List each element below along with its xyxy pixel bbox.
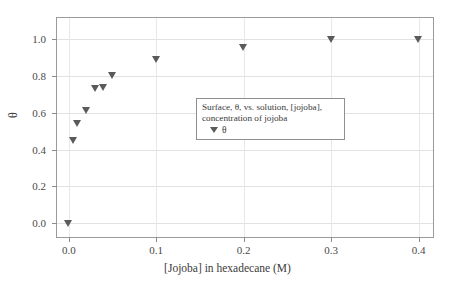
y-axis-tick-label: 0.8 <box>6 71 46 82</box>
x-axis-title: [Jojoba] in hexadecane (M) <box>0 262 455 274</box>
data-point-marker <box>91 85 99 92</box>
y-axis-tick <box>52 113 57 114</box>
gridline-vertical <box>156 18 157 237</box>
data-point-marker <box>152 56 160 63</box>
data-point-marker <box>82 107 90 114</box>
triangle-down-icon <box>210 127 218 133</box>
y-axis-title: θ <box>6 112 21 118</box>
x-axis-tick <box>331 237 332 242</box>
legend-title-line-2: concentration of jojoba <box>202 113 339 124</box>
x-axis-tick <box>156 237 157 242</box>
y-axis-tick <box>52 76 57 77</box>
y-axis-tick <box>52 186 57 187</box>
y-axis-tick-label: 0.0 <box>6 218 46 229</box>
legend[interactable]: Surface, θ, vs. solution, [jojoba], conc… <box>196 98 345 140</box>
gridline-horizontal <box>57 39 433 40</box>
legend-title: Surface, θ, vs. solution, [jojoba], conc… <box>202 102 339 124</box>
y-axis-tick <box>52 150 57 151</box>
data-point-marker <box>69 137 77 144</box>
gridline-horizontal <box>57 223 433 224</box>
y-axis-tick-label: 0.4 <box>6 145 46 156</box>
legend-title-line-1: Surface, θ, vs. solution, [jojoba], <box>202 102 339 113</box>
y-axis-tick-label: 1.0 <box>6 34 46 45</box>
x-axis-tick <box>244 237 245 242</box>
y-axis-tick-label: 0.2 <box>6 181 46 192</box>
data-point-marker <box>99 84 107 91</box>
data-point-marker <box>73 120 81 127</box>
gridline-vertical <box>69 18 70 237</box>
data-point-marker <box>327 36 335 43</box>
figure: 0.00.20.40.60.81.00.00.10.20.30.4 θ [Joj… <box>0 0 455 284</box>
x-axis-tick-label: 0.2 <box>224 245 264 256</box>
x-axis-tick-label: 0.4 <box>399 245 439 256</box>
x-axis-tick-label: 0.0 <box>49 245 89 256</box>
data-point-marker <box>239 44 247 51</box>
y-axis-tick <box>52 223 57 224</box>
gridline-vertical <box>419 18 420 237</box>
x-axis-tick-label: 0.3 <box>311 245 351 256</box>
data-point-marker <box>64 220 72 227</box>
data-point-marker <box>108 72 116 79</box>
legend-entry-theta[interactable]: θ <box>202 125 339 135</box>
data-point-marker <box>414 36 422 43</box>
gridline-horizontal <box>57 150 433 151</box>
x-axis-tick-label: 0.1 <box>136 245 176 256</box>
x-axis-tick <box>69 237 70 242</box>
y-axis-tick <box>52 39 57 40</box>
legend-entry-label: θ <box>222 125 227 135</box>
x-axis-tick <box>419 237 420 242</box>
gridline-horizontal <box>57 186 433 187</box>
